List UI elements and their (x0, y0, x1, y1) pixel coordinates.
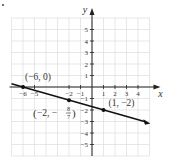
point-label-neg6-0: (−6, 0) (25, 72, 51, 83)
y-tick-label: 4 (85, 38, 89, 46)
y-tick-label: 2 (85, 61, 89, 69)
data-point (67, 98, 71, 102)
x-tick-label: −6 (19, 90, 27, 98)
x-tick-label: 4 (136, 90, 140, 98)
data-point (21, 85, 25, 89)
y-tick-label: −4 (81, 130, 89, 138)
y-tick-label: 5 (85, 26, 89, 34)
x-tick-label: 3 (125, 90, 129, 98)
y-tick-label: −1 (81, 95, 89, 103)
figure-marker (2, 4, 4, 6)
y-tick-label: −5 (81, 141, 89, 149)
x-axis-label: x (157, 88, 163, 99)
line-graph: xy −6−5−2−1123454321−1−2−3−4−5 (−6, 0)(1… (0, 0, 170, 160)
x-tick-label: 1 (102, 90, 106, 98)
data-point (102, 108, 106, 112)
y-tick-label: −3 (81, 118, 89, 126)
y-tick-label: 3 (85, 49, 89, 57)
label-paren-close: ) (72, 107, 76, 120)
y-tick-label: −2 (81, 107, 89, 115)
fraction-denominator: 7 (67, 114, 70, 120)
point-label-neg2-neg8-7: (−2, −87) (33, 106, 76, 120)
y-axis-label: y (82, 4, 88, 15)
label-prefix: −2, − (37, 108, 57, 118)
point-label-1-neg2: (1, −2) (109, 98, 135, 109)
point-labels: (−6, 0)(1, −2)(−2, −87) (2, 4, 134, 120)
y-axis-arrow-icon (90, 8, 95, 15)
x-tick-label: −2 (65, 90, 73, 98)
y-tick-label: 1 (85, 72, 89, 80)
fraction-numerator: 8 (67, 106, 70, 112)
x-tick-label: 2 (113, 90, 117, 98)
